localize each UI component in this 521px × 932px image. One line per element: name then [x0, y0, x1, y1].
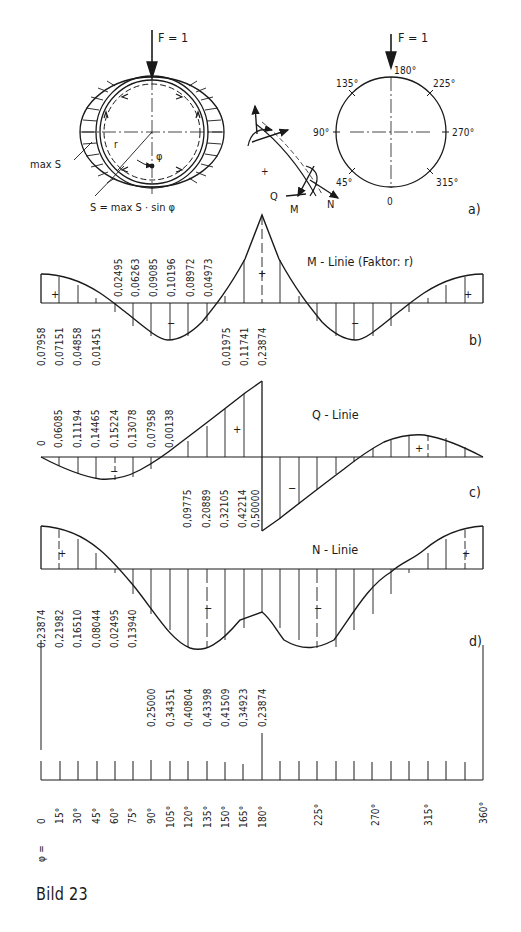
svg-text:0,02495: 0,02495: [109, 609, 120, 648]
ring-with-shear-flow: [74, 30, 224, 196]
panel-label-c: c): [469, 484, 481, 500]
m-sign-plus-right: +: [464, 288, 472, 301]
panel-label-b: b): [469, 332, 482, 348]
q-sign-minus-left: −: [110, 465, 118, 478]
plus-sign-sketch: +: [261, 166, 269, 177]
q-line-diagram: [41, 381, 483, 531]
svg-text:0: 0: [36, 440, 47, 446]
phi-axis-tick-labels: 0 15° 30° 45° 60° 75° 90° 105° 120° 135°…: [36, 802, 489, 828]
svg-text:45°: 45°: [91, 807, 102, 824]
svg-text:0,09085: 0,09085: [148, 258, 159, 297]
q-line-lower-values: 0,09775 0,20889 0,32105 0,42214 0,50000: [182, 489, 261, 528]
svg-text:0,13940: 0,13940: [127, 609, 138, 648]
svg-text:0,43398: 0,43398: [202, 688, 213, 727]
m-line-title: M - Linie (Faktor: r): [307, 254, 413, 269]
svg-text:0,13078: 0,13078: [127, 409, 138, 448]
svg-text:75°: 75°: [127, 807, 138, 824]
svg-text:120°: 120°: [183, 806, 194, 828]
q-sign-minus-right: −: [288, 482, 296, 495]
svg-text:0,23874: 0,23874: [257, 688, 268, 727]
svg-text:165°: 165°: [238, 806, 249, 828]
svg-text:0,21982: 0,21982: [54, 609, 65, 648]
m-sign-minus-left: −: [167, 317, 175, 330]
svg-text:0,20889: 0,20889: [201, 489, 212, 528]
n-sign-plus-left: +: [58, 547, 66, 560]
svg-text:0,42214: 0,42214: [237, 489, 248, 528]
svg-text:360°: 360°: [478, 802, 489, 824]
svg-text:0,11741: 0,11741: [239, 327, 250, 366]
svg-text:90°: 90°: [146, 807, 157, 824]
m-sign-minus-right: −: [351, 317, 359, 330]
svg-text:0,34351: 0,34351: [165, 688, 176, 727]
angle-45: 45°: [336, 177, 353, 188]
svg-text:60°: 60°: [109, 807, 120, 824]
phi-angle-label: φ: [156, 150, 163, 163]
svg-text:0,08972: 0,08972: [185, 258, 196, 297]
svg-text:0,07958: 0,07958: [36, 327, 47, 366]
n-sign-minus-right: −: [314, 602, 322, 615]
angle-0: 0: [387, 196, 393, 207]
m-sign-plus-left: +: [51, 288, 59, 301]
svg-text:0,06263: 0,06263: [130, 258, 141, 297]
svg-text:0,32105: 0,32105: [219, 489, 230, 528]
svg-text:0,06085: 0,06085: [53, 409, 64, 448]
svg-text:0,16510: 0,16510: [72, 609, 83, 648]
svg-text:135°: 135°: [202, 806, 213, 828]
svg-text:0,41509: 0,41509: [220, 688, 231, 727]
section-force-sign-convention: [248, 106, 338, 198]
svg-text:0,34923: 0,34923: [238, 688, 249, 727]
q-line-upper-values: 0 0,06085 0,11194 0,14465 0,15224 0,1307…: [36, 409, 175, 448]
svg-text:30°: 30°: [72, 807, 83, 824]
svg-text:0,07151: 0,07151: [54, 327, 65, 366]
svg-text:0,23874: 0,23874: [257, 327, 268, 366]
figure-caption: Bild 23: [36, 884, 88, 904]
angle-reference-ring: [333, 34, 449, 188]
n-line-left-values: 0,23874 0,21982 0,16510 0,08044 0,02495 …: [36, 609, 138, 648]
load-label-right: F = 1: [398, 30, 428, 45]
svg-text:0,14465: 0,14465: [90, 409, 101, 448]
svg-text:315°: 315°: [423, 804, 434, 826]
svg-text:105°: 105°: [165, 806, 176, 828]
panel-label-d: d): [469, 633, 482, 649]
svg-text:15°: 15°: [54, 807, 65, 824]
angle-270: 270°: [452, 127, 474, 138]
angle-90: 90°: [313, 127, 330, 138]
load-label-left: F = 1: [158, 30, 188, 45]
q-sign-plus-left: +: [233, 423, 241, 436]
n-line-mid-values: 0,25000 0,34351 0,40804 0,43398 0,41509 …: [146, 688, 268, 727]
shear-formula: S = max S · sin φ: [90, 201, 175, 214]
n-label: N: [327, 198, 334, 211]
n-sign-plus-right: +: [462, 547, 470, 560]
svg-text:0,15224: 0,15224: [109, 409, 120, 448]
svg-text:0,10196: 0,10196: [166, 258, 177, 297]
panel-label-a: a): [468, 201, 481, 217]
angle-180: 180°: [394, 65, 416, 76]
svg-text:0,02495: 0,02495: [113, 258, 124, 297]
svg-text:225°: 225°: [313, 804, 324, 826]
svg-text:0: 0: [36, 818, 47, 824]
m-label: M: [290, 203, 299, 216]
svg-text:270°: 270°: [370, 804, 381, 826]
svg-text:0,09775: 0,09775: [182, 489, 193, 528]
angle-135: 135°: [336, 78, 358, 89]
phi-axis-symbol: φ =: [36, 845, 47, 862]
max-s-label: max S: [30, 158, 61, 171]
m-line-upper-values: 0,02495 0,06263 0,09085 0,10196 0,08972 …: [113, 258, 214, 297]
angle-315: 315°: [436, 177, 458, 188]
figure-canvas: F = 1 max S φ r S = max S · sin φ + Q M …: [0, 0, 521, 932]
m-sign-plus-mid: +: [258, 267, 266, 280]
svg-text:0,40804: 0,40804: [183, 688, 194, 727]
radius-label: r: [114, 139, 118, 150]
n-line-title: N - Linie: [312, 542, 358, 557]
svg-text:0,04973: 0,04973: [203, 258, 214, 297]
svg-text:0,00138: 0,00138: [164, 409, 175, 448]
svg-text:180°: 180°: [257, 806, 268, 828]
svg-text:0,07958: 0,07958: [146, 409, 157, 448]
svg-text:0,04858: 0,04858: [72, 327, 83, 366]
svg-text:0,08044: 0,08044: [91, 609, 102, 648]
svg-text:150°: 150°: [220, 806, 231, 828]
svg-text:0,25000: 0,25000: [146, 688, 157, 727]
svg-text:0,01451: 0,01451: [91, 327, 102, 366]
angle-225: 225°: [433, 78, 455, 89]
q-line-title: Q - Linie: [312, 407, 359, 422]
